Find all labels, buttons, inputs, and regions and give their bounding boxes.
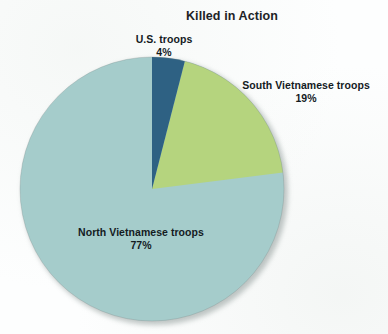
slice-label-us-troops-name: U.S. troops <box>136 33 193 45</box>
slice-label-south-vietnamese-pct: 19% <box>228 92 384 105</box>
slice-label-us-troops-pct: 4% <box>108 46 220 59</box>
slice-label-north-vietnamese-pct: 77% <box>56 239 226 252</box>
slice-label-us-troops: U.S. troops 4% <box>108 33 220 59</box>
slice-label-north-vietnamese: North Vietnamese troops 77% <box>56 226 226 252</box>
pie-chart-figure: Killed in Action U.S. troops 4% South Vi… <box>0 0 388 334</box>
chart-title: Killed in Action <box>0 9 388 23</box>
slice-label-south-vietnamese: South Vietnamese troops 19% <box>228 79 384 105</box>
slice-label-south-vietnamese-name: South Vietnamese troops <box>242 79 370 91</box>
slice-label-north-vietnamese-name: North Vietnamese troops <box>78 226 204 238</box>
